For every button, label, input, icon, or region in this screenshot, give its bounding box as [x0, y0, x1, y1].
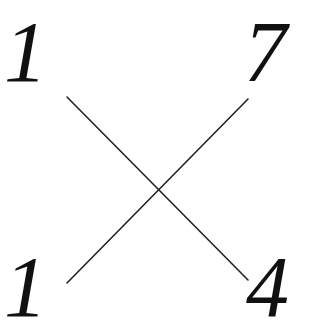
- line-top-right-to-bottom-left: [67, 99, 248, 283]
- cross-lines: [0, 0, 317, 334]
- line-top-left-to-bottom-right: [67, 97, 248, 280]
